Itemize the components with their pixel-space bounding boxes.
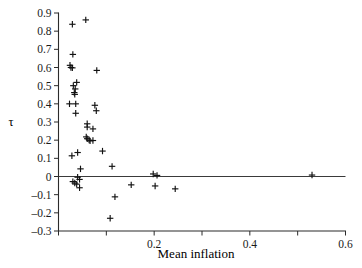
y-tick-label: 0.8 [37,25,52,37]
data-point [66,101,72,107]
y-tick-label: 0.9 [37,7,52,19]
x-tick-label: 0.4 [243,238,258,250]
x-axis-title: Mean inflation [158,246,235,261]
y-tick-label: 0.4 [37,98,52,110]
data-point [74,149,80,155]
scatter-plot-figure: –0.3–0.2–0.100.10.20.30.40.50.60.70.80.9… [0,0,362,268]
plot-canvas: –0.3–0.2–0.100.10.20.30.40.50.60.70.80.9… [0,0,362,268]
y-tick-label: 0.7 [37,43,52,55]
data-point [69,21,75,27]
tick-labels-layer: –0.3–0.2–0.100.10.20.30.40.50.60.70.80.9… [30,7,353,250]
data-point [77,166,83,172]
y-tick-label: 0.3 [37,116,52,128]
data-point [152,183,158,189]
data-point [76,185,82,191]
data-point [92,102,98,108]
data-point [84,124,90,130]
data-point [93,108,99,114]
x-tick-label: 0.6 [338,238,353,250]
data-point [73,79,79,85]
data-point [128,182,134,188]
data-point [112,194,118,200]
data-point [83,17,89,23]
y-tick-label: 0.6 [37,62,52,74]
data-point [69,153,75,159]
y-tick-label: –0.1 [30,189,51,201]
axis-spines [59,13,346,231]
y-tick-label: 0.2 [37,134,52,146]
y-tick-label: 0.5 [37,80,52,92]
y-tick-label: 0 [46,171,52,183]
data-point [109,163,115,169]
y-tick-label: –0.2 [30,207,51,219]
y-tick-label: 0.1 [37,152,52,164]
data-point [99,148,105,154]
tick-marks-layer [54,13,346,236]
axes-layer [59,13,346,231]
data-points-layer [66,17,315,222]
data-point [70,51,76,57]
data-point [172,186,178,192]
data-point [154,172,160,178]
data-point [107,215,113,221]
data-point [73,101,79,107]
y-tick-label: –0.3 [30,225,51,237]
data-point [94,67,100,73]
data-point [73,110,79,116]
data-point [90,126,96,132]
data-point [309,172,315,178]
y-axis-title: τ [8,115,13,129]
